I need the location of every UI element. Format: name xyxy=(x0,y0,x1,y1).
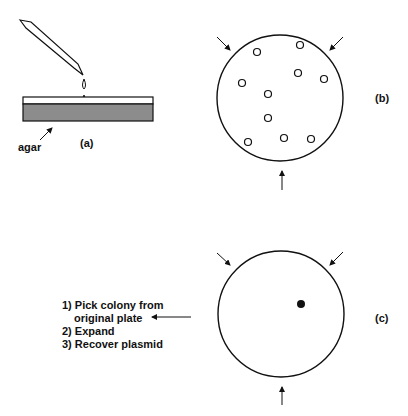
agar-pointer-arrow xyxy=(40,128,52,140)
procedure-steps: 1) Pick colony from original plate 2) Ex… xyxy=(62,299,163,351)
plate-b xyxy=(217,35,343,190)
panel-label-b: (b) xyxy=(375,92,389,105)
diagram-canvas xyxy=(0,0,408,416)
step-2: 2) Expand xyxy=(62,325,163,338)
agar-label: agar xyxy=(18,141,41,154)
panel-label-c: (c) xyxy=(375,312,388,325)
step-1: 1) Pick colony from xyxy=(62,299,163,312)
colony-icons xyxy=(239,42,328,146)
step-1-cont: original plate xyxy=(62,312,163,325)
panel-label-a: (a) xyxy=(80,137,93,150)
pipette-icon xyxy=(20,20,83,75)
petri-dish-side-view xyxy=(23,97,153,121)
picked-colony-icon xyxy=(297,300,305,308)
plate-c xyxy=(217,251,344,405)
step-3: 3) Recover plasmid xyxy=(62,338,163,351)
